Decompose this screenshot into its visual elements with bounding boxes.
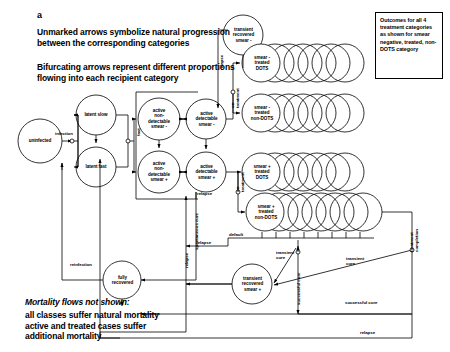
node-label-active-detectable-smear-neg: active detectable smear - bbox=[186, 111, 227, 127]
edge-label-fast: fast bbox=[136, 128, 141, 136]
edge-label-treatment-completion: treatment completion bbox=[409, 229, 419, 252]
node-label-latent-fast: latent fast bbox=[74, 164, 118, 169]
diagram-canvas: a Unmarked arrows symbolize natural prog… bbox=[0, 0, 450, 352]
edge-label-on-treatment-top: on treatment bbox=[230, 88, 240, 108]
node-label-smear-neg-treated-non-dots: smear - treated non-DOTS bbox=[241, 105, 283, 121]
node-label-transient-recovered-smear-pos: transient recovered smear + bbox=[232, 276, 273, 292]
outcomes-infobox: Outcomes for all 4 treatment categories … bbox=[375, 12, 443, 79]
edge-label-relapse-top: relapse bbox=[219, 55, 224, 70]
legend-note-bifurcating-arrows: Bifurcating arrows represent different p… bbox=[37, 62, 277, 83]
node-label-uninfected: uninfected bbox=[18, 138, 62, 143]
edge-label-transient-cure-left: transient cure bbox=[276, 250, 306, 260]
edge-label-infection: infection bbox=[55, 131, 73, 136]
edge-label-reinfection: reinfection bbox=[70, 262, 92, 267]
edge-label-successful-cure: successful cure bbox=[345, 300, 377, 305]
edge-label-transient-cure-right: transient cure bbox=[346, 256, 376, 266]
panel-letter: a bbox=[37, 10, 42, 20]
node-label-smear-neg-treated-dots: smear - treated DOTS bbox=[242, 55, 282, 71]
edge-label-relapse-lower: relapse bbox=[184, 253, 189, 268]
node-label-active-nondetectable-smear-neg: active non- detectable smear - bbox=[138, 108, 180, 130]
node-label-smear-pos-treated-dots: smear + treated DOTS bbox=[242, 164, 282, 180]
edge-label-spontaneous-cure: spontaneous cure bbox=[194, 213, 199, 250]
node-label-smear-pos-treated-non-dots: smear + treated non-DOTS bbox=[245, 204, 287, 220]
mortality-note-title: Mortality flows not shown: bbox=[25, 297, 130, 308]
edge-label-successful-cure-vertical: successful cure bbox=[296, 273, 301, 305]
edge-label-relapse-bottom: relapse bbox=[360, 330, 375, 335]
edge-label-default: default bbox=[229, 232, 243, 237]
node-label-latent-slow: latent slow bbox=[74, 112, 118, 117]
edge-label-on-treatment-bottom: on treatment bbox=[235, 172, 245, 192]
node-label-transient-recovered-smear-neg: transient recovered smear - bbox=[223, 27, 264, 43]
edge-label-relapse-mid: relapse bbox=[197, 191, 212, 196]
node-label-fully-recovered: fully recovered bbox=[103, 275, 142, 286]
node-label-active-nondetectable-smear-pos: active non- detectable smear + bbox=[138, 161, 180, 183]
node-label-active-detectable-smear-pos: active detectable smear + bbox=[186, 164, 227, 180]
mortality-note-body: all classes suffer natural mortality act… bbox=[25, 310, 235, 342]
